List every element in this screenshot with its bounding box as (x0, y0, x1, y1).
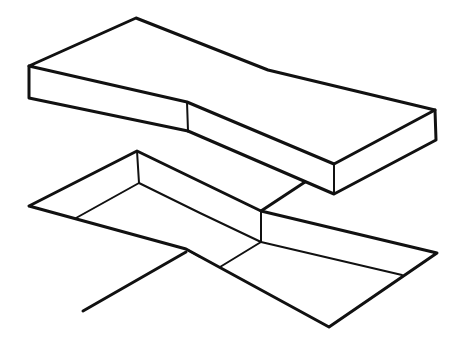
top-block-top-face (29, 18, 435, 164)
diagram-canvas (0, 0, 464, 353)
top-block (29, 18, 436, 194)
cavity-floor-crease (139, 183, 261, 242)
cavity (29, 151, 437, 327)
cavity-left-wall-bottom (186, 249, 200, 257)
top-block-front-bottom-edge (188, 110, 436, 194)
cavity-right-inner-edge (261, 242, 402, 275)
cavity-inner-bottom-left (220, 242, 261, 267)
cavity-rim-back (261, 182, 305, 211)
leader-line (83, 252, 186, 311)
cavity-left-inner-edge (76, 183, 139, 218)
top-block-left-face (29, 66, 188, 131)
cavity-rim (29, 151, 437, 327)
block-and-cavity-drawing (0, 0, 464, 353)
cavity-left-inner-vertical (137, 151, 139, 183)
top-block-crease (187, 102, 188, 131)
